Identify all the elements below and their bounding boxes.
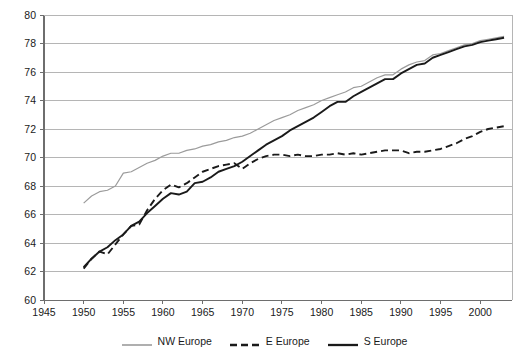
legend-swatch-nw-europe	[122, 336, 152, 346]
legend-label-nw-europe: NW Europe	[158, 336, 212, 347]
y-tick-label: 60	[0, 295, 36, 306]
y-tick-label: 62	[0, 266, 36, 277]
legend-label-s-europe: S Europe	[364, 336, 408, 347]
legend-item-nw-europe: NW Europe	[122, 336, 212, 347]
y-tick-label: 78	[0, 38, 36, 49]
legend-item-e-europe: E Europe	[230, 336, 310, 347]
y-tick-label: 72	[0, 124, 36, 135]
y-tick-label: 66	[0, 209, 36, 220]
data-series-group	[84, 36, 504, 268]
x-axis-ticks	[44, 300, 480, 304]
series-line-e-europe	[84, 126, 504, 269]
legend-swatch-e-europe	[230, 336, 260, 346]
line-chart: 6062646668707274767880 19451950195519601…	[0, 0, 529, 363]
legend-item-s-europe: S Europe	[328, 336, 408, 347]
series-line-nw-europe	[84, 36, 504, 203]
y-tick-label: 74	[0, 95, 36, 106]
y-tick-label: 80	[0, 10, 36, 21]
legend-swatch-s-europe	[328, 336, 358, 346]
y-tick-label: 64	[0, 238, 36, 249]
y-tick-label: 70	[0, 152, 36, 163]
y-tick-label: 68	[0, 181, 36, 192]
y-tick-label: 76	[0, 67, 36, 78]
chart-legend: NW Europe E Europe S Europe	[0, 336, 529, 347]
x-tick-label: 2000	[457, 307, 503, 318]
legend-label-e-europe: E Europe	[266, 336, 310, 347]
grid-lines	[44, 15, 512, 300]
